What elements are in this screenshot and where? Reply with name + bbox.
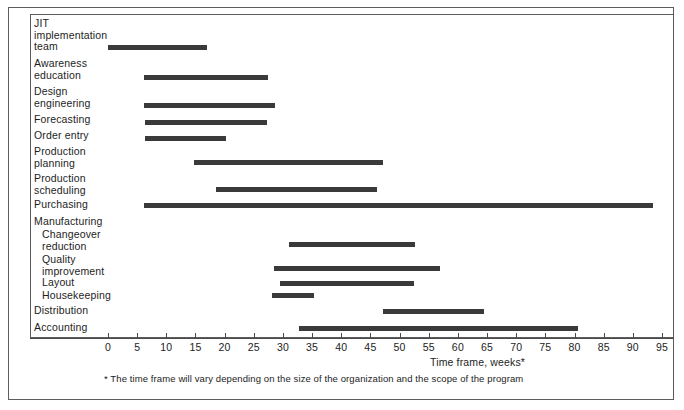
x-axis-tick [225, 333, 226, 339]
x-axis-tick-label: 40 [335, 341, 347, 353]
gantt-bar-list [0, 0, 684, 338]
x-axis-tick [312, 333, 313, 339]
x-axis-tick [166, 333, 167, 339]
x-axis-tick-label: 85 [598, 341, 610, 353]
gantt-bar [145, 120, 267, 125]
x-axis-tick-label: 35 [306, 341, 318, 353]
x-axis-tick-label: 0 [105, 341, 111, 353]
x-axis-tick-label: 10 [160, 341, 172, 353]
gantt-chart-figure: JIT implementation teamAwareness educati… [0, 0, 684, 410]
x-axis-tick-label: 55 [423, 341, 435, 353]
x-axis-tick [108, 333, 109, 339]
gantt-bar [383, 309, 484, 314]
gantt-bar [108, 45, 207, 50]
x-axis-tick [487, 333, 488, 339]
x-axis-tick-label: 50 [394, 341, 406, 353]
x-axis-title: Time frame, weeks* [430, 356, 525, 368]
x-axis-tick-label: 90 [627, 341, 639, 353]
x-axis-tick [400, 333, 401, 339]
x-axis-tick [254, 333, 255, 339]
gantt-bar [274, 266, 440, 271]
gantt-bar [289, 242, 415, 247]
gantt-bar [194, 160, 384, 165]
x-axis-tick-label: 70 [510, 341, 522, 353]
x-axis-tick [516, 333, 517, 339]
gantt-bar [272, 293, 313, 298]
x-axis-tick [633, 333, 634, 339]
gantt-bar [216, 187, 378, 192]
gantt-bar [299, 326, 578, 331]
x-axis-tick [575, 333, 576, 339]
x-axis-line [30, 338, 674, 339]
x-axis-tick-label: 80 [568, 341, 580, 353]
x-axis-tick-label: 25 [248, 341, 260, 353]
x-axis-tick [545, 333, 546, 339]
x-axis-tick [195, 333, 196, 339]
gantt-bar [144, 203, 653, 208]
x-axis-tick [429, 333, 430, 339]
x-axis-tick-label: 65 [481, 341, 493, 353]
x-axis-tick-label: 15 [189, 341, 201, 353]
x-axis-tick [341, 333, 342, 339]
gantt-bar [280, 281, 414, 286]
x-axis-tick [458, 333, 459, 339]
x-axis-tick [604, 333, 605, 339]
chart-footnote: * The time frame will vary depending on … [104, 373, 523, 384]
x-axis-tick-label: 5 [134, 341, 140, 353]
x-axis-tick [662, 333, 663, 339]
gantt-bar [144, 103, 275, 108]
x-axis-tick-label: 75 [539, 341, 551, 353]
x-axis-tick [137, 333, 138, 339]
gantt-bar [144, 75, 268, 80]
x-axis-tick-label: 30 [277, 341, 289, 353]
x-axis-tick-label: 20 [219, 341, 231, 353]
x-axis-tick-label: 45 [364, 341, 376, 353]
x-axis-tick-label: 60 [452, 341, 464, 353]
x-axis-tick [283, 333, 284, 339]
x-axis-tick-label: 95 [656, 341, 668, 353]
gantt-bar [145, 136, 226, 141]
x-axis-tick [370, 333, 371, 339]
